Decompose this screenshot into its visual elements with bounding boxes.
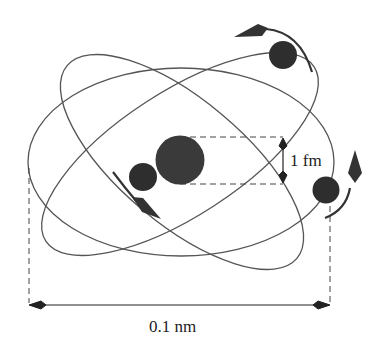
electron-top-right bbox=[269, 41, 297, 69]
nucleus-dimension-arrow bbox=[279, 138, 287, 183]
atom-guides bbox=[29, 168, 330, 303]
atom-dimension-arrow bbox=[29, 301, 330, 309]
nucleus-size-label: 1 fm bbox=[290, 151, 322, 170]
electron-left bbox=[129, 163, 157, 191]
electron-right bbox=[313, 177, 340, 204]
atom-diagram: 1 fm 0.1 nm bbox=[0, 0, 385, 352]
nucleus bbox=[156, 136, 205, 185]
atom-size-label: 0.1 nm bbox=[149, 317, 196, 336]
